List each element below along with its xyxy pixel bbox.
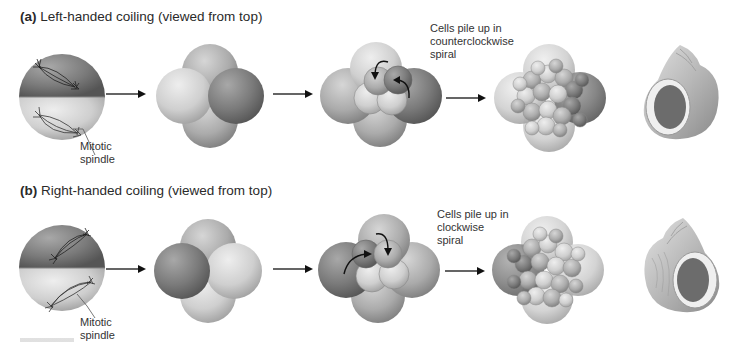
panel-b-four-cell-stage — [153, 215, 263, 325]
right-arrow-icon — [446, 94, 486, 102]
panel-b-arrow-2 — [273, 265, 313, 273]
panel-b-letter: (b) — [20, 183, 37, 198]
right-arrow-icon — [106, 90, 146, 98]
panel-a-arrow-1 — [106, 90, 146, 98]
eight-cell-embryo-icon — [318, 38, 443, 150]
panel-b-arrow-1 — [106, 265, 146, 273]
morula-icon — [490, 212, 605, 327]
right-arrow-icon — [106, 265, 146, 273]
panel-a-arrow-3 — [446, 94, 486, 102]
figure-caption-cutoff — [20, 338, 110, 342]
four-cell-embryo-icon — [155, 40, 265, 150]
panel-a-two-cell-stage — [17, 37, 107, 157]
panel-b-arrow-3 — [445, 267, 485, 275]
right-arrow-icon — [273, 90, 313, 98]
panel-a-eight-cell-stage — [318, 38, 443, 150]
four-cell-embryo-icon — [153, 215, 263, 325]
panel-b-morula — [490, 212, 605, 327]
panel-a-title-text: Left-handed coiling (viewed from top) — [40, 9, 262, 24]
snail-shell-left-icon — [640, 45, 725, 145]
spindle-label-line1: Mitotic — [80, 140, 115, 153]
panel-a-arrow-2 — [273, 90, 313, 98]
right-arrow-icon — [273, 265, 313, 273]
panel-b-title: (b) Right-handed coiling (viewed from to… — [20, 183, 272, 198]
panel-b-title-text: Right-handed coiling (viewed from top) — [41, 183, 272, 198]
panel-a-spindle-label: Mitotic spindle — [80, 140, 115, 166]
two-cell-embryo-icon — [17, 37, 107, 157]
spiral-label-line1: Cells pile up in — [430, 22, 514, 35]
right-arrow-icon — [445, 267, 485, 275]
panel-a-sinistral-shell — [640, 45, 725, 145]
panel-b-two-cell-stage — [17, 210, 107, 325]
panel-b-eight-cell-stage — [316, 212, 441, 324]
two-cell-embryo-icon — [17, 210, 107, 325]
panel-a-four-cell-stage — [155, 40, 265, 150]
panel-a-letter: (a) — [20, 9, 37, 24]
spindle-label-line1: Mitotic — [80, 316, 115, 329]
morula-icon — [492, 40, 607, 155]
panel-a-morula — [492, 40, 607, 155]
snail-shell-right-icon — [638, 218, 723, 318]
panel-b-dextral-shell — [638, 218, 723, 318]
eight-cell-embryo-icon — [316, 212, 441, 324]
panel-a-title: (a) Left-handed coiling (viewed from top… — [20, 9, 262, 24]
spindle-label-line2: spindle — [80, 153, 115, 166]
